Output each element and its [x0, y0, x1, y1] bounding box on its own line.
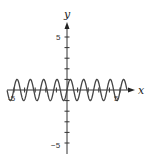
y-tick-label-neg5: −5 — [51, 141, 61, 150]
x-axis-arrow-icon — [128, 88, 135, 93]
x-tick-label-5: 5 — [114, 94, 119, 103]
x-axis-label: x — [138, 84, 145, 97]
sine-plot: y x 5 −5 -5 5 — [0, 0, 147, 158]
y-tick-label-5: 5 — [56, 33, 61, 42]
y-axis-label: y — [63, 8, 71, 21]
y-axis-arrow-icon — [65, 22, 70, 29]
x-tick-label-neg5: -5 — [8, 94, 16, 103]
